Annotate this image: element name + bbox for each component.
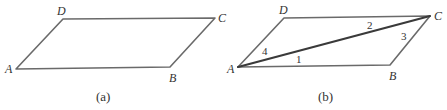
caption-a: (a) [96,89,110,104]
angle-label-1: 1 [296,53,302,65]
angle-label-2: 2 [367,19,373,31]
vertex-label-b: B [169,71,177,85]
figure-b: A B C D 1 2 3 4 (b) [226,3,443,104]
vertex-label-c: C [434,9,443,23]
vertex-label-d: D [278,3,288,17]
vertex-label-a: A [226,62,235,76]
vertex-label-c: C [218,11,227,25]
angle-label-3: 3 [401,30,407,42]
parallelogram-abcd-a [16,18,215,69]
vertex-label-b: B [389,69,397,83]
angle-label-4: 4 [262,45,268,57]
caption-b: (b) [318,89,333,104]
parallelogram-figures: A B C D (a) A B C D 1 2 3 4 (b) [0,0,447,110]
vertex-label-a: A [4,62,13,76]
vertex-label-d: D [56,4,66,18]
figure-a: A B C D (a) [4,4,227,104]
